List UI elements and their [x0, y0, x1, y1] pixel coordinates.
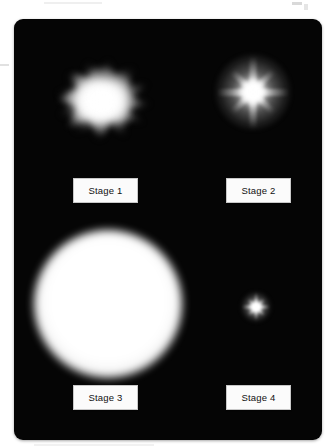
scan-artifact-left: [0, 64, 9, 66]
small-eight-point-star-glyph: [241, 292, 271, 322]
stage-label-3-text: Stage 3: [89, 393, 123, 403]
scan-artifact-top-right: [292, 2, 302, 5]
star-halo: [215, 54, 291, 130]
star-ray: [242, 305, 270, 308]
burst-inner-layer: [50, 52, 154, 152]
stage-label-1: Stage 1: [73, 178, 138, 203]
stage-label-1-text: Stage 1: [89, 186, 123, 196]
star-ray: [254, 293, 257, 321]
eight-point-star-glyph: [215, 54, 291, 130]
star-ray: [231, 70, 276, 115]
stage-label-4: Stage 4: [226, 385, 291, 410]
small-star-rays: [241, 292, 271, 322]
scan-artifact-bottom: [34, 444, 154, 446]
figure-panel: Stage 1 Stage 2 Stage 3 Stage 4: [14, 19, 322, 440]
burst-shape-outer: [50, 52, 154, 152]
star-ray: [247, 298, 265, 316]
burst-core-glow: [81, 82, 127, 122]
star-ray: [217, 89, 289, 96]
star-rays: [215, 54, 291, 130]
small-star-core: [251, 302, 262, 313]
stage-label-3: Stage 3: [73, 385, 138, 410]
large-glow-disc-glyph: [34, 230, 182, 378]
glow-disc: [34, 230, 182, 378]
small-star-halo: [241, 292, 271, 322]
scan-artifact-top-mark: [304, 4, 308, 10]
stage-label-4-text: Stage 4: [242, 393, 276, 403]
burst-shape-inner: [58, 62, 141, 140]
irregular-burst-glyph: [50, 52, 154, 152]
star-ray: [247, 298, 265, 316]
star-ray: [250, 56, 257, 128]
star-ray: [231, 70, 276, 115]
burst-outer-layer: [50, 52, 154, 152]
stage-label-2: Stage 2: [226, 178, 291, 203]
page-root: Stage 1 Stage 2 Stage 3 Stage 4: [0, 0, 334, 448]
stage-label-2-text: Stage 2: [242, 186, 276, 196]
star-core: [240, 79, 266, 105]
scan-artifact-top-left: [44, 2, 102, 4]
